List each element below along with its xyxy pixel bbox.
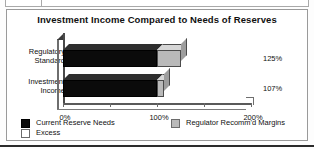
bar-segment-current-reserve-needs [63,50,157,67]
table-column-divider [41,0,42,6]
bar-segment-regulator-margins [157,50,181,67]
truncated-table-row-above [5,0,309,7]
legend-item-regulator-recommd-margins: Regulator Recomm'd Margins [171,118,285,128]
y-axis-back-line [57,39,59,109]
x-axis-back-line [57,109,246,110]
data-label-regulatory-standard: 125% [263,54,282,63]
x-tick-100 [157,103,158,107]
bar-segment-current-reserve-needs [63,80,157,97]
chart-title: Investment Income Compared to Needs of R… [7,14,307,25]
x-tick-50 [110,103,111,107]
bar-face-front [63,50,157,67]
page-bottom-rule [0,145,314,147]
bar-segment-regulator-margins [157,80,164,97]
bar-face-front [63,80,157,97]
legend-item-current-reserve-needs: Current Reserve Needs [21,118,115,128]
bar-face-top [63,44,163,50]
bar-investment-income [63,80,164,97]
x-tick-200 [251,103,252,107]
legend-item-excess: Excess [21,128,60,138]
data-label-investment-income: 107% [263,84,282,93]
bar-face-front [157,50,181,67]
figure-container: Investment Income Compared to Needs of R… [0,0,314,149]
legend-label: Regulator Recomm'd Margins [186,118,285,127]
bar-face-top [63,74,163,80]
bar-face-front [157,80,164,97]
bar-face-side [164,68,170,91]
y-axis-label-investment-income: Investment Income [28,78,65,95]
chart-legend: Current Reserve Needs Excess Regulator R… [7,116,309,141]
legend-swatch-gray-icon [171,119,180,128]
x-tick-150 [204,103,205,107]
chart-frame: Investment Income Compared to Needs of R… [6,9,308,141]
y-axis-label-regulatory-standard: Regulatory Standard [29,48,65,65]
x-axis-arrow-icon [246,97,254,105]
plot-area: Regulatory Standard Investment Income 0%… [7,28,309,114]
legend-label: Excess [36,128,60,137]
legend-swatch-black-icon [21,119,30,128]
x-tick-0 [63,103,64,107]
bar-face-side [181,38,187,61]
bar-regulatory-standard [63,50,181,67]
legend-label: Current Reserve Needs [36,118,115,127]
legend-swatch-white-icon [21,129,30,138]
